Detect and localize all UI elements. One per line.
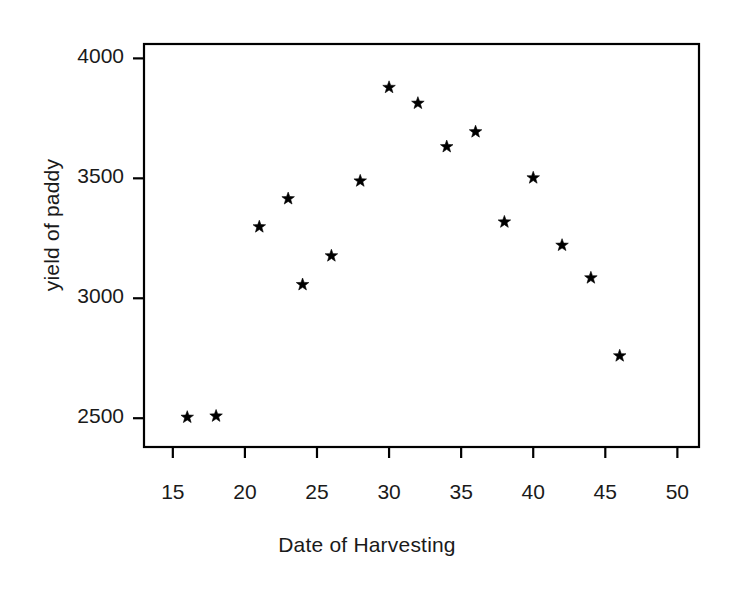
data-point-star-icon [469,125,482,137]
x-axis-tick-label: 15 [133,480,213,504]
data-point-star-icon [210,409,223,421]
data-point-star-icon [354,174,367,186]
x-axis-tick-label: 45 [565,480,645,504]
x-axis-tick-label: 35 [421,480,501,504]
x-axis-label: Date of Harvesting [0,533,734,557]
data-point-star-icon [296,278,309,290]
data-point-star-icon [527,171,540,183]
data-point-star-icon [498,215,511,227]
data-point-star-icon [613,349,626,361]
x-axis-tick-label: 50 [637,480,717,504]
data-point-star-icon [325,249,338,261]
data-point-star-icon [253,220,266,232]
plot-frame [144,44,699,447]
data-point-star-icon [383,81,396,93]
x-axis-tick-label: 40 [493,480,573,504]
y-axis-tick-label: 4000 [14,44,124,68]
data-point-star-icon [556,239,569,251]
data-series-yield-of-paddy [181,81,626,423]
y-axis-tick-label: 3500 [14,164,124,188]
x-axis-tick-label: 20 [205,480,285,504]
x-axis-tick-label: 30 [349,480,429,504]
data-point-star-icon [585,271,598,283]
x-axis-tick-label: 25 [277,480,357,504]
data-point-star-icon [181,411,194,423]
data-point-star-icon [282,192,295,204]
data-point-star-icon [412,97,425,109]
y-axis-tick-label: 2500 [14,404,124,428]
y-axis-tick-label: 3000 [14,284,124,308]
data-point-star-icon [440,140,453,152]
scatter-plot-figure: yield of paddy Date of Harvesting 250030… [0,0,734,606]
